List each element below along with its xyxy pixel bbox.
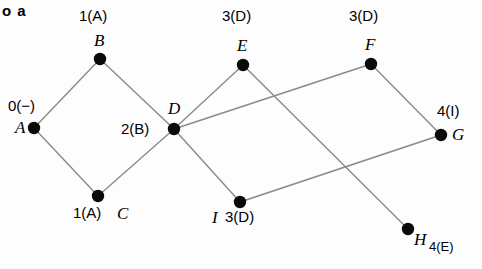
- graph-edge-F-G: [371, 64, 441, 135]
- graph-edge-D-E: [174, 65, 243, 129]
- graph-edge-A-C: [34, 128, 98, 196]
- graph-node-F[interactable]: [365, 58, 377, 70]
- node-label-B: B: [94, 32, 104, 49]
- graph-edge-C-D: [98, 129, 174, 196]
- node-label-D: D: [168, 100, 180, 117]
- graph-edge-D-I: [174, 129, 240, 202]
- node-distance-C: 1(A): [73, 205, 101, 220]
- graph-edge-I-G: [240, 135, 441, 202]
- graph-edge-B-D: [100, 59, 174, 129]
- node-distance-H: 4(E): [429, 240, 454, 253]
- node-distance-F: 3(D): [349, 8, 378, 23]
- graph-edge-A-B: [34, 59, 100, 128]
- node-distance-I: 3(D): [225, 209, 254, 224]
- graph-node-C[interactable]: [92, 190, 104, 202]
- graph-edge-D-F: [174, 64, 371, 129]
- figure-container: o a A B C D E F G H I 0(−) 1(A) 1(A) 2(B…: [0, 0, 482, 269]
- graph-node-E[interactable]: [237, 59, 249, 71]
- graph-edge-E-H: [243, 65, 408, 229]
- node-distance-A: 0(−): [8, 98, 35, 113]
- node-distance-E: 3(D): [222, 8, 251, 23]
- graph-node-I[interactable]: [234, 196, 246, 208]
- node-label-A: A: [15, 119, 25, 136]
- graph-node-D[interactable]: [168, 123, 180, 135]
- node-label-C: C: [117, 205, 128, 222]
- node-distance-B: 1(A): [79, 8, 107, 23]
- node-label-G: G: [452, 126, 464, 143]
- node-label-F: F: [365, 36, 375, 53]
- node-distance-D: 2(B): [121, 121, 149, 136]
- graph-node-G[interactable]: [435, 129, 447, 141]
- node-label-I: I: [212, 209, 218, 226]
- node-label-H: H: [414, 231, 426, 248]
- graph-node-H[interactable]: [402, 223, 414, 235]
- graph-node-B[interactable]: [94, 53, 106, 65]
- node-label-E: E: [237, 37, 247, 54]
- node-distance-G: 4(I): [437, 103, 460, 118]
- graph-node-A[interactable]: [28, 122, 40, 134]
